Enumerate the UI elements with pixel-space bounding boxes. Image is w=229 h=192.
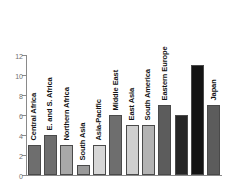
bar [126,125,139,175]
bar [191,65,204,175]
y-axis-tick-label: 10 [15,72,23,79]
bar [93,145,106,175]
bar [28,145,41,175]
bar-category-label: East Asia [128,87,136,120]
y-axis-tick-label: 8 [19,92,23,99]
bar [207,105,220,175]
bar-category-label: North America [177,60,185,110]
bar [77,165,90,175]
bar-category-label: Middle East [112,69,120,110]
y-axis-tick-label: 0 [19,172,23,179]
bar-category-label: Central Africa [30,92,38,140]
bar-category-label: Western Europe [194,4,202,60]
y-axis-tick-label: 2 [19,152,23,159]
bar [109,115,122,175]
y-axis-tick-label: 6 [19,112,23,119]
bar-chart: 024681012 Central AfricaE. and S. Africa… [0,0,229,192]
bar-category-label: South America [145,69,153,120]
bar-category-label: Northern Africa [63,87,71,140]
bar-category-label: Eastern Europe [161,46,169,100]
bar [175,115,188,175]
bar [142,125,155,175]
bar [44,135,57,175]
bar-category-label: South Asia [79,122,87,160]
bar [158,105,171,175]
y-axis-tick-label: 12 [15,52,23,59]
bar-category-label: Asia-Pacific [96,99,104,140]
bar-category-label: E. and S. Africa [47,77,55,130]
bar [60,145,73,175]
x-axis-line [26,175,222,176]
bar-category-label: Japan [210,79,218,100]
y-axis-tick-label: 4 [19,132,23,139]
plot-area: 024681012 Central AfricaE. and S. Africa… [26,6,222,174]
